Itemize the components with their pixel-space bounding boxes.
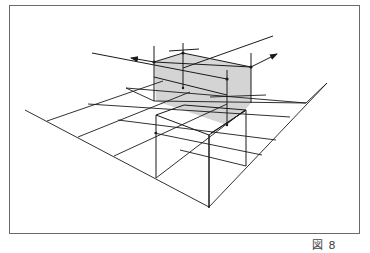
perspective-diagram bbox=[0, 0, 370, 253]
figure-caption: 図 8 bbox=[312, 236, 337, 252]
right-arrow bbox=[251, 54, 277, 67]
